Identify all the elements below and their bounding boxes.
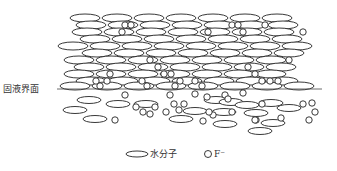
fluoride-ion (122, 92, 128, 98)
fluoride-ion (168, 71, 174, 77)
fluoride-ion (133, 104, 139, 110)
legend-water-label: 水分子 (150, 149, 177, 159)
fluoride-ion (204, 94, 210, 100)
legend-fluoride-label: F⁻ (214, 149, 225, 159)
fluoride-ion (181, 101, 187, 107)
fluoride-ion (112, 117, 118, 123)
fluoride-ion (128, 22, 134, 28)
water-molecule (248, 128, 272, 135)
water-molecule (213, 121, 237, 128)
fluoride-ion (206, 109, 212, 115)
fluoride-ion (312, 109, 318, 115)
fluoride-ion (122, 22, 128, 28)
fluoride-ion (245, 64, 251, 70)
fluoride-ion (147, 111, 153, 117)
fluoride-ion (229, 109, 235, 115)
fluoride-ion (252, 117, 258, 123)
legend-water-icon (126, 151, 148, 157)
fluoride-ion (144, 83, 150, 89)
fluoride-ion (200, 118, 206, 124)
fluoride-ion (172, 83, 178, 89)
fluoride-ion (140, 109, 146, 115)
fluoride-ion (205, 29, 211, 35)
fluoride-ion (262, 22, 268, 28)
water-molecule (106, 101, 130, 108)
fluoride-ion (300, 101, 306, 107)
fluoride-ion (177, 78, 183, 84)
fluoride-ion (176, 107, 182, 113)
fluoride-ion (240, 29, 246, 35)
fluoride-ion (306, 117, 312, 123)
fluoride-ion (163, 109, 169, 115)
fluoride-ion (267, 78, 273, 84)
fluoride-ion (161, 71, 167, 77)
diagram-canvas (0, 0, 337, 171)
legend-fluoride-icon (205, 151, 212, 158)
fluoride-ion (107, 71, 113, 77)
fluoride-ion (275, 78, 281, 84)
water-molecule (235, 102, 259, 109)
water-molecule (183, 108, 207, 115)
water-molecule (169, 116, 193, 123)
fluoride-ion (286, 57, 292, 63)
water-molecule (58, 42, 88, 50)
fluoride-ion (167, 92, 173, 98)
water-molecule (63, 107, 87, 114)
fluoride-ion (139, 78, 145, 84)
fluoride-ion (229, 22, 235, 28)
fluoride-ion (147, 57, 153, 63)
fluoride-ion (252, 71, 258, 77)
fluoride-ion (93, 78, 99, 84)
fluoride-ion (171, 101, 177, 107)
fluoride-ion (259, 78, 265, 84)
dispersed-region (63, 90, 318, 135)
fluoride-ion (199, 83, 205, 89)
fluoride-ion (225, 96, 231, 102)
fluoride-ion (155, 64, 161, 70)
fluoride-ion (240, 90, 246, 96)
fluoride-ion (192, 91, 198, 97)
fluoride-ion (104, 78, 110, 84)
fluoride-ion (119, 29, 125, 35)
fluoride-ion (259, 101, 265, 107)
water-molecule (274, 49, 304, 57)
water-molecule (83, 116, 107, 123)
fluoride-ion (152, 104, 158, 110)
fluoride-ion (300, 29, 306, 35)
fluoride-ion (278, 115, 284, 121)
water-molecule (77, 97, 101, 104)
fluoride-ion (309, 100, 315, 106)
interface-label: 固液界面 (3, 84, 39, 94)
water-molecule (244, 110, 268, 117)
water-molecule (277, 105, 301, 112)
packed-water-layer (58, 14, 314, 90)
fluoride-ion (235, 22, 241, 28)
fluoride-ion (192, 78, 198, 84)
